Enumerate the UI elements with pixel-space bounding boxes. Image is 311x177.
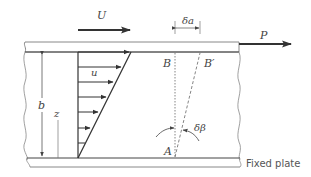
fixed-plate-label: Fixed plate <box>246 158 300 169</box>
moving-plate <box>24 42 239 52</box>
gap-height-label: b <box>38 99 45 112</box>
fixed-plate <box>27 158 241 167</box>
line-AB-prime <box>175 53 200 157</box>
velocity-profile <box>78 52 131 158</box>
point-A-label: A <box>163 145 172 158</box>
couette-flow-diagram: U P δa u b z B B′ A δβ Fixed plate <box>0 0 311 177</box>
angle-label: δβ <box>194 122 206 133</box>
force-P-label: P <box>259 29 268 42</box>
right-cut-boundary <box>238 52 241 160</box>
height-coord-label: z <box>53 108 60 119</box>
point-B-label: B <box>162 57 171 70</box>
displacement-label: δa <box>182 15 194 26</box>
local-velocity-label: u <box>91 67 97 78</box>
left-cut-boundary <box>24 52 27 160</box>
angle-arc-left <box>156 128 174 137</box>
velocity-U-label: U <box>97 9 107 22</box>
point-B-prime-label: B′ <box>203 57 215 70</box>
